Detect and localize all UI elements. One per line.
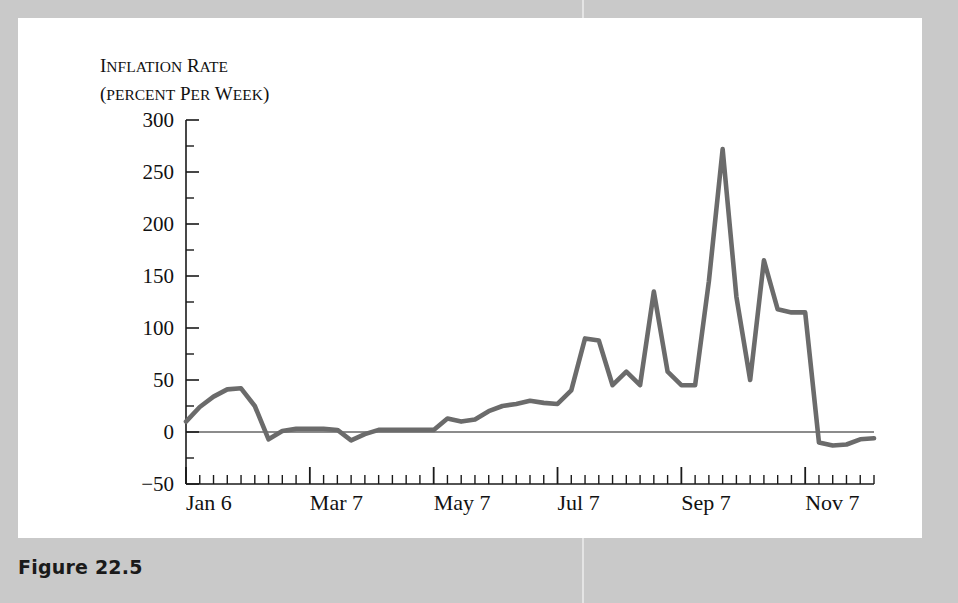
y-axis-title-line1: INFLATION RATE xyxy=(100,55,228,76)
y-tick-label: 300 xyxy=(143,108,175,132)
y-tick-label: 0 xyxy=(164,420,175,444)
inflation-data-line xyxy=(186,149,874,445)
y-tick-label: 100 xyxy=(143,316,175,340)
inflation-rate-line-chart: INFLATION RATE (PERCENT PER WEEK) −50050… xyxy=(18,18,922,538)
x-tick-label: Nov 7 xyxy=(805,490,859,515)
figure-page: INFLATION RATE (PERCENT PER WEEK) −50050… xyxy=(0,0,958,603)
x-tick-label: Mar 7 xyxy=(310,490,363,515)
x-tick-label: Jan 6 xyxy=(186,490,232,515)
x-tick-label: Jul 7 xyxy=(558,490,600,515)
y-tick-label: −50 xyxy=(141,472,174,496)
y-tick-label: 50 xyxy=(153,368,174,392)
y-axis-title-line2: (PERCENT PER WEEK) xyxy=(100,83,269,105)
figure-panel: INFLATION RATE (PERCENT PER WEEK) −50050… xyxy=(18,18,922,538)
x-axis-major-ticks xyxy=(186,467,805,484)
x-tick-label: Sep 7 xyxy=(681,490,731,515)
figure-caption: Figure 22.5 xyxy=(18,556,143,578)
x-axis-minor-ticks xyxy=(200,475,874,484)
y-tick-label: 200 xyxy=(143,212,175,236)
y-axis-tick-labels: −50050100150200250300 xyxy=(141,108,174,496)
x-axis-tick-labels: Jan 6Mar 7May 7Jul 7Sep 7Nov 7 xyxy=(186,490,860,515)
y-tick-label: 150 xyxy=(143,264,175,288)
y-tick-label: 250 xyxy=(143,160,175,184)
x-tick-label: May 7 xyxy=(434,490,491,515)
